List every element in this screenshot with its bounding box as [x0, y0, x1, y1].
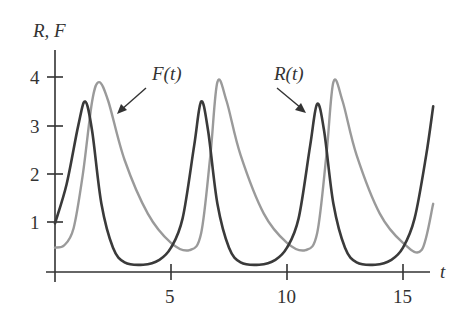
x-tick-label-15: 15: [393, 286, 412, 307]
annotation-F-arrow: [121, 88, 146, 110]
series-R-line: [55, 101, 433, 265]
chart: 1 2 3 4 5 10 15 R, F t F(t) R(t): [0, 0, 470, 317]
y-tick-label-2: 2: [30, 164, 40, 185]
annotation-R-label: R(t): [273, 63, 304, 85]
annotation-F-label: F(t): [151, 63, 182, 85]
x-axis-label: t: [440, 261, 446, 282]
y-tick-label-1: 1: [30, 212, 40, 233]
y-tick-label-4: 4: [30, 67, 40, 88]
y-tick-label-3: 3: [30, 116, 40, 137]
y-axis-label: R, F: [32, 20, 66, 41]
x-tick-label-10: 10: [277, 286, 296, 307]
x-tick-label-5: 5: [165, 286, 175, 307]
annotation-R-arrow: [277, 88, 301, 108]
series-F-line: [55, 79, 433, 252]
